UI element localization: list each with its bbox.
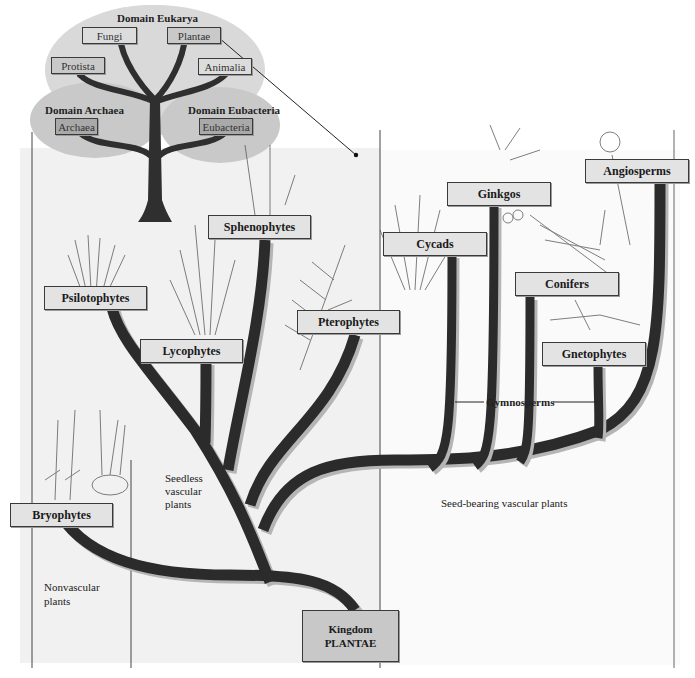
nonvascular-plants-text: Nonvascular plants [44, 580, 100, 608]
label-plantae: Plantae [167, 27, 221, 44]
kingdom-line1: Kingdom [328, 622, 372, 636]
gymnosperms-text: Gymnosperms [486, 395, 554, 409]
kingdom-line2: PLANTAE [325, 636, 377, 650]
domain-eukarya-title: Domain Eukarya [117, 12, 198, 24]
label-archaea: Archaea [55, 118, 98, 135]
label-protista: Protista [51, 57, 105, 74]
label-conifers: Conifers [515, 272, 619, 296]
branch-lycophytes [205, 362, 206, 443]
label-sphenophytes: Sphenophytes [208, 215, 311, 239]
label-lycophytes: Lycophytes [140, 339, 243, 363]
label-angiosperms: Angiosperms [585, 159, 689, 183]
domain-eubacteria-title: Domain Eubacteria [188, 104, 280, 116]
label-gnetophytes: Gnetophytes [542, 342, 646, 366]
label-psilotophytes: Psilotophytes [44, 286, 147, 310]
label-fungi: Fungi [82, 27, 137, 44]
branch-gnetophytes [598, 365, 599, 438]
label-ginkgos: Ginkgos [447, 182, 551, 206]
label-cycads: Cycads [383, 232, 487, 256]
diagram-graphics [0, 0, 695, 678]
label-pterophytes: Pterophytes [297, 310, 400, 334]
label-animalia: Animalia [198, 58, 252, 75]
label-kingdom-plantae: Kingdom PLANTAE [302, 610, 399, 662]
label-bryophytes: Bryophytes [10, 503, 113, 527]
label-eubacteria: Eubacteria [199, 118, 253, 135]
seed-bearing-vascular-plants-text: Seed-bearing vascular plants [441, 496, 567, 510]
seedless-vascular-plants-text: Seedless vascular plants [165, 472, 203, 511]
domain-archaea-title: Domain Archaea [45, 104, 124, 116]
plant-phylogeny-diagram: Domain Eukarya Domain Archaea Domain Eub… [0, 0, 695, 678]
